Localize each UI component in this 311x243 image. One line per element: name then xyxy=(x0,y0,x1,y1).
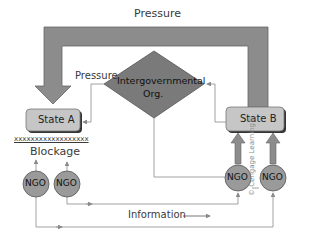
igo-label-line2: Org. xyxy=(143,88,163,99)
information-label: Information xyxy=(128,209,186,220)
copyright-label: © Cengage Learning® xyxy=(248,116,256,196)
ngo-label-right-1: NGO xyxy=(227,172,248,182)
state-b-label: State B xyxy=(240,113,277,124)
ngo-label-left-2: NGO xyxy=(56,178,77,188)
ngo-label-right-2: NGO xyxy=(262,172,283,182)
igo-label-line1: Intergovernmental xyxy=(117,75,206,86)
blockage-marks: xxxxxxxxxxxxxxxxxx xyxy=(14,135,89,143)
state-a-label: State A xyxy=(38,114,75,125)
top-pressure-label: Pressure xyxy=(134,7,181,20)
ngo-to-state-b-arrow-1 xyxy=(231,133,245,164)
side-pressure-label: Pressure xyxy=(75,70,118,81)
blockage-label: Blockage xyxy=(30,145,80,158)
ngo-to-state-b-arrow-2 xyxy=(266,133,280,164)
ngo-label-left-1: NGO xyxy=(25,178,46,188)
